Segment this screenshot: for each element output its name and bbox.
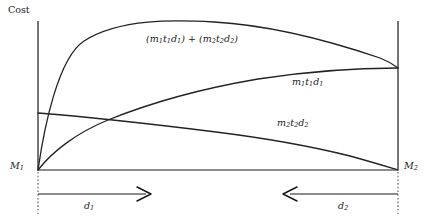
dimension-label-d1: d1: [84, 200, 94, 212]
d1-index: 1: [90, 204, 94, 212]
m-1: m: [150, 33, 159, 44]
y-axis-title: Cost: [8, 4, 30, 15]
curve-label-m1t1d1: m1t1d1: [292, 76, 324, 88]
m-2: m: [203, 33, 212, 44]
curve-label-m2t2d2: m2t2d2: [277, 117, 309, 129]
m1-letter: M: [10, 160, 20, 171]
d2-index: 2: [344, 204, 348, 212]
m2-index: 2: [414, 164, 418, 172]
d2-sub: 2: [304, 121, 308, 129]
dimension-label-d2: d2: [338, 200, 348, 212]
m2-m: m: [277, 117, 286, 128]
endpoint-label-m2: M2: [404, 160, 418, 172]
endpoint-label-m1: M1: [10, 160, 24, 172]
cost-distance-chart: Cost (m1t1d1) + (m2t2d2) m1t1d1 m2t2d2 M…: [0, 0, 429, 223]
d1-sub: 1: [319, 80, 323, 88]
curve-m2t2d2: [38, 113, 398, 170]
m1-index: 1: [20, 164, 24, 172]
m1-m: m: [292, 76, 301, 87]
paren-close: ): [234, 33, 238, 44]
paren-plus: ) + (: [181, 33, 202, 44]
m2-letter: M: [404, 160, 414, 171]
curve-label-total-cost: (m1t1d1) + (m2t2d2): [146, 33, 238, 45]
